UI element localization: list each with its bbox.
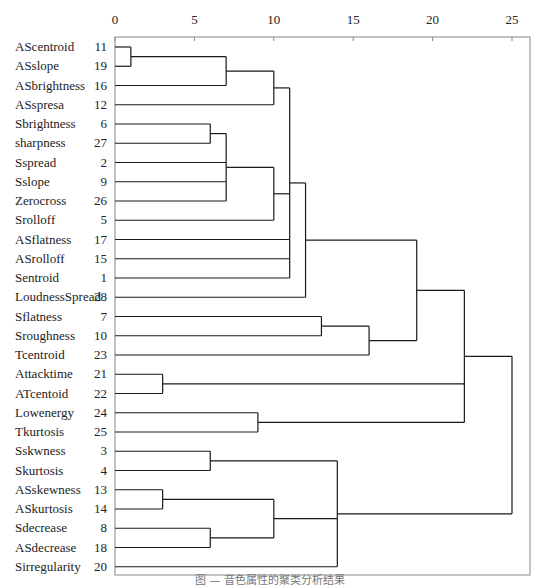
leaf-id: 8	[101, 520, 108, 535]
leaf-name: Sdecrease	[15, 520, 67, 535]
leaf-name: sharpness	[15, 135, 66, 150]
leaf-name: ASflatness	[15, 232, 71, 247]
x-tick-label: 10	[267, 12, 280, 27]
leaf-labels: AScentroid11ASslope19ASbrightness16ASspr…	[15, 39, 108, 574]
leaf-id: 6	[101, 116, 108, 131]
leaf-id: 13	[94, 482, 107, 497]
x-tick-label: 20	[426, 12, 439, 27]
leaf-id: 23	[94, 347, 107, 362]
leaf-id: 21	[94, 366, 107, 381]
leaf-name: Sirregularity	[15, 559, 81, 574]
leaf-name: ASskewness	[15, 482, 81, 497]
leaf-id: 5	[101, 212, 108, 227]
dendrogram-links	[115, 47, 512, 567]
leaf-id: 10	[94, 328, 107, 343]
leaf-id: 18	[94, 540, 107, 555]
figure-caption: 图 — 音色属性的聚类分析结果	[195, 573, 345, 587]
leaf-id: 22	[94, 386, 107, 401]
leaf-name: Sskwness	[15, 443, 66, 458]
leaf-name: ASbrightness	[15, 78, 85, 93]
leaf-id: 15	[94, 251, 107, 266]
leaf-name: Sspread	[15, 155, 57, 170]
leaf-name: Tkurtosis	[15, 424, 64, 439]
plot-frame	[115, 37, 530, 575]
leaf-name: Sentroid	[15, 270, 60, 285]
leaf-id: 27	[94, 135, 108, 150]
leaf-name: Srolloff	[15, 212, 56, 227]
leaf-name: ASspresa	[15, 97, 64, 112]
leaf-id: 16	[94, 78, 108, 93]
leaf-name: ATcentoid	[15, 386, 69, 401]
leaf-id: 9	[101, 174, 108, 189]
leaf-id: 17	[94, 232, 108, 247]
leaf-id: 4	[101, 463, 108, 478]
leaf-name: Zerocross	[15, 193, 66, 208]
x-tick-label: 25	[506, 12, 519, 27]
x-tick-label: 0	[112, 12, 119, 27]
leaf-name: Tcentroid	[15, 347, 65, 362]
leaf-id: 24	[94, 405, 108, 420]
leaf-name: AScentroid	[15, 39, 75, 54]
leaf-id: 1	[101, 270, 108, 285]
x-tick-label: 5	[191, 12, 198, 27]
leaf-name: LoudnessSpread	[15, 289, 101, 304]
leaf-id: 26	[94, 193, 108, 208]
leaf-name: Sbrightness	[15, 116, 76, 131]
leaf-name: ASdecrease	[15, 540, 77, 555]
leaf-id: 7	[101, 309, 108, 324]
leaf-id: 11	[94, 39, 107, 54]
leaf-name: Sflatness	[15, 309, 62, 324]
dendrogram-chart: 0510152025 AScentroid11ASslope19ASbright…	[0, 0, 541, 587]
leaf-id: 19	[94, 58, 107, 73]
leaf-id: 20	[94, 559, 107, 574]
leaf-name: ASslope	[15, 58, 59, 73]
leaf-name: Sslope	[15, 174, 50, 189]
leaf-id: 3	[101, 443, 108, 458]
leaf-name: Attacktime	[15, 366, 73, 381]
leaf-id: 25	[94, 424, 107, 439]
leaf-name: Skurtosis	[15, 463, 63, 478]
leaf-name: ASkurtosis	[15, 501, 73, 516]
leaf-id: 12	[94, 97, 107, 112]
x-tick-label: 15	[347, 12, 360, 27]
leaf-id: 28	[94, 289, 107, 304]
leaf-name: ASrolloff	[15, 251, 65, 266]
leaf-name: Sroughness	[15, 328, 75, 343]
leaf-id: 14	[94, 501, 108, 516]
leaf-name: Lowenergy	[15, 405, 74, 420]
leaf-id: 2	[101, 155, 108, 170]
